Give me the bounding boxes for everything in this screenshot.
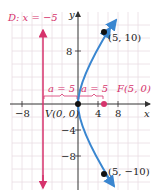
y-tick-8: 8 — [66, 46, 72, 57]
point-bottom-label: (5, −10) — [108, 166, 150, 177]
a-left-label: a = 5 — [48, 83, 75, 94]
x-tick-8: 8 — [115, 108, 121, 119]
point-top — [101, 29, 107, 35]
a-right-label: a = 5 — [81, 83, 108, 94]
vertex-label: V(0, 0) — [45, 108, 79, 119]
focus-point — [101, 101, 107, 107]
x-tick-4: 4 — [95, 108, 101, 119]
y-axis-label: y — [68, 9, 75, 20]
point-bottom — [101, 171, 107, 177]
focus-label: F(5, 0) — [116, 83, 151, 94]
x-axis-label: x — [144, 108, 150, 119]
x-tick-neg8: −8 — [15, 108, 30, 119]
y-tick-neg4: −4 — [61, 125, 76, 136]
distance-brackets — [44, 94, 103, 99]
parabola-chart: −8 4 8 8 −4 −8 x y D: x = −5 a = 5 a = 5… — [0, 0, 164, 190]
directrix-label: D: x = −5 — [7, 12, 58, 23]
y-tick-neg8: −8 — [61, 151, 76, 162]
point-top-label: (5, 10) — [108, 32, 141, 43]
vertex-point — [75, 101, 81, 107]
